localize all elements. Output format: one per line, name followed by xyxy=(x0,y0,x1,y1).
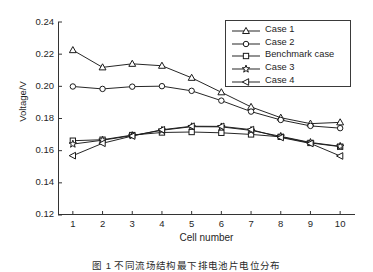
data-point-marker xyxy=(337,125,342,130)
legend-item-case-1[interactable]: Case 1 xyxy=(226,23,350,36)
series-case-3 xyxy=(69,123,344,150)
figure-caption: 图 1 不同流场结构最下排电池片电位分布 xyxy=(0,258,373,272)
legend-marker-star-icon xyxy=(231,61,261,73)
x-axis-title: Cell number xyxy=(58,232,355,243)
figure-container: 0.24 0.22 0.20 0.18 0.16 0.14 0.12 Volta… xyxy=(0,0,373,272)
data-point-marker xyxy=(69,47,76,53)
legend-item-case-3[interactable]: Case 3 xyxy=(226,61,350,74)
data-point-marker xyxy=(69,152,75,159)
x-tick-label: 1 xyxy=(62,218,84,229)
legend-label: Case 3 xyxy=(261,62,294,72)
x-tick-label: 3 xyxy=(121,218,143,229)
x-tick-label: 10 xyxy=(329,218,351,229)
data-point-marker xyxy=(308,123,313,128)
x-tick-label: 6 xyxy=(210,218,232,229)
data-point-marker xyxy=(129,60,136,66)
chart-legend[interactable]: Case 1 Case 2 Benchmark case Case 3 Case… xyxy=(225,20,351,87)
data-point-marker xyxy=(100,86,105,91)
data-point-marker xyxy=(189,88,194,93)
x-tick-label: 4 xyxy=(151,218,173,229)
data-point-marker xyxy=(218,89,225,95)
series-case-2 xyxy=(70,83,343,130)
data-point-marker xyxy=(336,153,342,160)
legend-item-case-4[interactable]: Case 4 xyxy=(226,73,350,86)
legend-label: Benchmark case xyxy=(261,49,334,59)
data-point-marker xyxy=(219,130,224,135)
data-point-marker xyxy=(278,117,283,122)
legend-label: Case 1 xyxy=(261,24,294,34)
legend-marker-triangle-up-icon xyxy=(231,23,261,35)
legend-marker-circle-icon xyxy=(231,36,261,48)
data-point-marker xyxy=(219,98,224,103)
legend-marker-square-icon xyxy=(231,48,261,60)
x-tick-label: 7 xyxy=(240,218,262,229)
legend-marker-triangle-left-icon xyxy=(231,74,261,86)
legend-item-benchmark-case[interactable]: Benchmark case xyxy=(226,48,350,61)
legend-item-case-2[interactable]: Case 2 xyxy=(226,36,350,49)
data-point-marker xyxy=(248,109,253,114)
legend-label: Case 4 xyxy=(261,75,294,85)
data-point-marker xyxy=(337,119,344,125)
legend-label: Case 2 xyxy=(261,37,294,47)
x-tick-label: 9 xyxy=(299,218,321,229)
x-tick-label: 2 xyxy=(92,218,114,229)
data-point-marker xyxy=(130,84,135,89)
data-point-marker xyxy=(159,83,164,88)
data-point-marker xyxy=(70,84,75,89)
x-tick-label: 8 xyxy=(270,218,292,229)
x-tick-label: 5 xyxy=(181,218,203,229)
